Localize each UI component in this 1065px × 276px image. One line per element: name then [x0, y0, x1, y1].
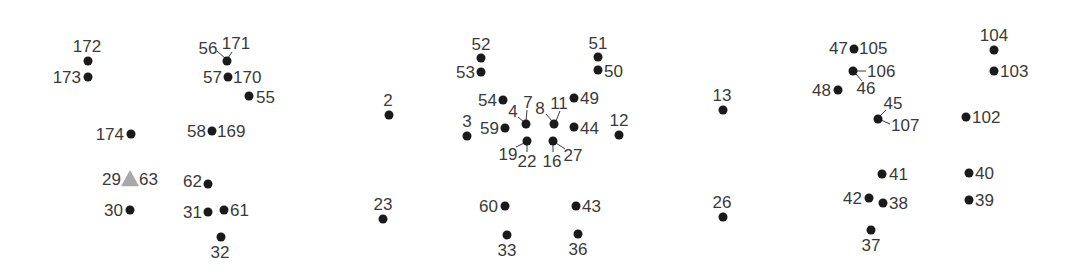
landmark-dot-icon: [849, 67, 858, 76]
landmark-dot-icon: [834, 86, 843, 95]
landmark-triangle-icon: [121, 170, 139, 186]
landmark-dot-icon: [501, 202, 510, 211]
landmark-dot-icon: [220, 206, 229, 215]
point-label: 13: [713, 86, 732, 105]
point-label: 16: [543, 152, 562, 171]
landmark-dot-icon: [126, 206, 135, 215]
point-label: 40: [975, 164, 994, 183]
point-label: 59: [480, 119, 499, 138]
landmark-dot-icon: [719, 106, 728, 115]
point-label: 38: [889, 194, 908, 213]
point-label: 173: [53, 68, 81, 87]
point-label: 48: [812, 81, 831, 100]
landmark-dot-icon: [127, 130, 136, 139]
point-label: 172: [73, 37, 101, 56]
landmark-dot-icon: [501, 124, 510, 133]
landmark-dot-icon: [615, 131, 624, 140]
point-label: 26: [713, 193, 732, 212]
landmark-dot-icon: [477, 68, 486, 77]
landmark-dot-icon: [224, 73, 233, 82]
point-label: 47: [829, 39, 848, 58]
point-label: 62: [183, 172, 202, 191]
landmark-dot-icon: [523, 137, 532, 146]
point-label: 2: [383, 91, 392, 110]
landmark-dot-icon: [990, 67, 999, 76]
point-label: 58: [187, 122, 206, 141]
landmark-dot-icon: [965, 196, 974, 205]
point-label: 42: [843, 189, 862, 208]
landmark-dot-icon: [574, 230, 583, 239]
point-label: 41: [889, 165, 908, 184]
point-label: 33: [498, 241, 517, 260]
landmark-dot-icon: [463, 132, 472, 141]
point-label: 169: [217, 122, 245, 141]
landmark-dot-icon: [385, 111, 394, 120]
landmark-dot-icon: [522, 120, 531, 129]
leader-line: [546, 114, 552, 121]
point-label: 60: [479, 197, 498, 216]
point-label: 8: [535, 99, 544, 118]
landmark-dot-icon: [223, 57, 232, 66]
landmark-dot-icon: [550, 120, 559, 129]
point-label: 57: [203, 68, 222, 87]
point-label: 46: [857, 79, 876, 98]
landmark-dot-icon: [962, 113, 971, 122]
landmark-dot-icon: [594, 66, 603, 75]
landmark-dot-icon: [990, 46, 999, 55]
landmark-dot-icon: [477, 54, 486, 63]
point-label: 30: [104, 201, 123, 220]
point-label: 31: [183, 203, 202, 222]
landmark-dot-icon: [217, 233, 226, 242]
point-label: 36: [569, 240, 588, 259]
landmark-diagram: 1721735617157170551745816929633062316132…: [0, 0, 1065, 276]
landmark-dot-icon: [208, 127, 217, 136]
landmark-dot-icon: [570, 123, 579, 132]
point-label: 171: [222, 34, 250, 53]
point-label: 51: [589, 34, 608, 53]
landmark-dot-icon: [84, 73, 93, 82]
point-label: 53: [456, 63, 475, 82]
landmark-dot-icon: [204, 208, 213, 217]
point-label: 56: [199, 39, 218, 58]
point-label: 49: [580, 89, 599, 108]
point-label: 27: [564, 146, 583, 165]
point-label: 61: [230, 201, 249, 220]
landmark-dot-icon: [719, 213, 728, 222]
point-label: 174: [96, 125, 124, 144]
landmark-dot-icon: [878, 170, 887, 179]
point-labels: 1721735617157170551745816929633062316132…: [53, 26, 1029, 262]
point-label: 54: [478, 91, 497, 110]
point-label: 63: [139, 170, 158, 189]
point-label: 52: [472, 35, 491, 54]
point-label: 43: [582, 197, 601, 216]
landmark-dot-icon: [503, 231, 512, 240]
landmark-dot-icon: [865, 194, 874, 203]
landmark-dot-icon: [965, 169, 974, 178]
landmark-dot-icon: [570, 94, 579, 103]
point-label: 103: [1000, 62, 1028, 81]
landmark-dot-icon: [572, 202, 581, 211]
point-label: 50: [604, 62, 623, 81]
point-label: 105: [859, 39, 887, 58]
landmark-dot-icon: [879, 199, 888, 208]
point-label: 12: [610, 111, 629, 130]
landmark-dot-icon: [379, 215, 388, 224]
point-label: 45: [884, 94, 903, 113]
landmark-dot-icon: [499, 96, 508, 105]
point-label: 11: [550, 94, 568, 113]
point-label: 7: [523, 93, 532, 112]
point-label: 102: [972, 108, 1000, 127]
leader-line: [881, 120, 890, 124]
point-label: 3: [462, 112, 471, 131]
landmark-dot-icon: [874, 115, 883, 124]
point-label: 44: [580, 119, 599, 138]
landmark-dot-icon: [245, 92, 254, 101]
point-label: 37: [862, 236, 881, 255]
landmark-dot-icon: [84, 57, 93, 66]
landmark-dot-icon: [867, 226, 876, 235]
point-label: 4: [508, 102, 517, 121]
landmark-dot-icon: [549, 137, 558, 146]
landmark-dot-icon: [204, 180, 213, 189]
point-label: 22: [518, 152, 537, 171]
landmark-dot-icon: [594, 53, 603, 62]
